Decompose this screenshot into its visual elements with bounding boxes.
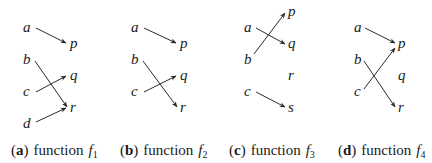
node-p: p — [179, 35, 188, 51]
node-r: r — [70, 99, 76, 115]
node-p: p — [397, 35, 406, 51]
node-b: b — [244, 51, 252, 67]
node-c: c — [131, 83, 138, 99]
arrow-a-to-p — [36, 28, 66, 43]
caption-b: (b)functionf2 — [120, 142, 208, 160]
node-p: p — [69, 35, 78, 51]
panel-b: a b c p q r (b)functionf2 — [120, 19, 208, 160]
node-b: b — [23, 51, 31, 67]
node-b: b — [354, 51, 362, 67]
node-b: b — [131, 51, 139, 67]
node-c: c — [23, 83, 30, 99]
node-r: r — [288, 67, 294, 83]
caption-c: (c)functionf3 — [229, 142, 315, 160]
function-diagrams: a b c d p q r (a)functionf1 a b c p q r … — [0, 0, 432, 163]
arrow-a-to-p — [144, 28, 176, 43]
node-c: c — [244, 83, 251, 99]
panel-d: a b c p q r (d)functionf4 — [338, 19, 426, 160]
node-a: a — [244, 19, 252, 35]
node-c: c — [354, 83, 361, 99]
panel-c: a b c p q r s (c)functionf3 — [229, 3, 315, 160]
node-q: q — [70, 67, 78, 83]
arrow-a-to-p — [365, 28, 395, 43]
caption-a: (a)functionf1 — [11, 142, 98, 160]
node-q: q — [180, 67, 188, 83]
arrow-b-to-p — [254, 13, 285, 54]
node-a: a — [131, 19, 139, 35]
node-s: s — [288, 99, 294, 115]
node-q: q — [288, 35, 296, 51]
caption-d: (d)functionf4 — [338, 142, 426, 160]
node-p: p — [287, 3, 296, 19]
node-r: r — [398, 99, 404, 115]
node-a: a — [354, 19, 362, 35]
node-q: q — [398, 67, 406, 83]
node-r: r — [180, 99, 186, 115]
arrow-c-to-q — [144, 76, 176, 92]
node-a: a — [23, 19, 31, 35]
arrow-c-to-q — [36, 76, 66, 92]
arrow-a-to-q — [256, 28, 285, 44]
panel-a: a b c d p q r (a)functionf1 — [11, 19, 98, 160]
node-d: d — [23, 115, 31, 131]
arrow-d-to-r — [36, 108, 66, 122]
arrow-c-to-s — [256, 92, 285, 107]
